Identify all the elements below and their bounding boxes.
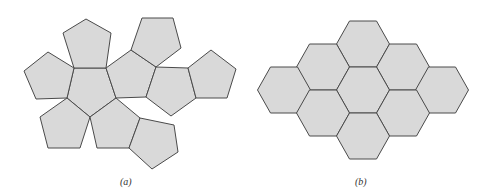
pentagon-face [24, 52, 74, 99]
pentagon-face [188, 50, 236, 98]
pentagon-face [146, 67, 196, 116]
dodecahedron-net [24, 18, 236, 169]
hexagon-patch [258, 21, 469, 159]
caption-a: (a) [120, 176, 132, 187]
caption-b: (b) [355, 176, 367, 187]
pentagon-face [63, 19, 111, 68]
figure-canvas [0, 0, 492, 191]
